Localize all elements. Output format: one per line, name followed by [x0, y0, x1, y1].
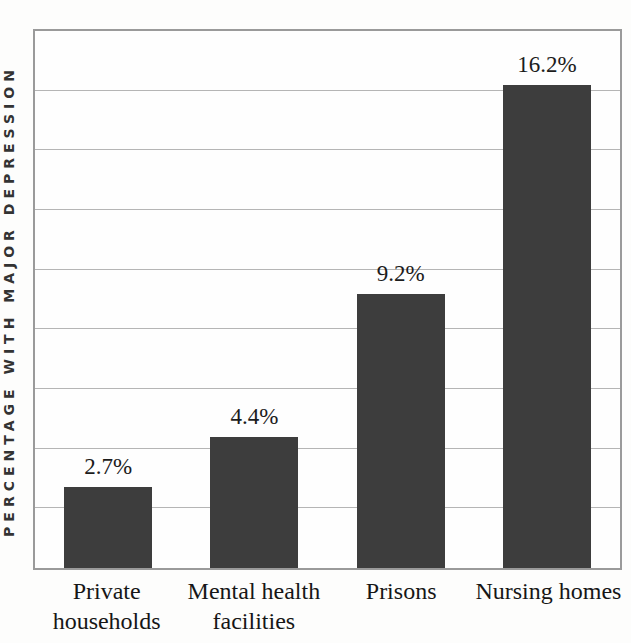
- category-label: Prisons: [328, 576, 475, 606]
- bar: [64, 487, 152, 568]
- bar-slot: 16.2%: [474, 31, 620, 568]
- bar-value-label: 16.2%: [517, 52, 576, 78]
- bar-value-label: 9.2%: [377, 261, 425, 287]
- category-label: Nursing homes: [475, 576, 622, 606]
- y-axis-label: PERCENTAGE WITH MAJOR DEPRESSION: [1, 31, 21, 571]
- bar-value-label: 4.4%: [230, 404, 278, 430]
- category-label-line: Private: [33, 576, 180, 606]
- bar-slot: 4.4%: [181, 31, 327, 568]
- category-label: Mental healthfacilities: [180, 576, 327, 636]
- bar: [503, 85, 591, 568]
- bar-slot: 2.7%: [35, 31, 181, 568]
- plot-area: 2.7%4.4%9.2%16.2%: [33, 29, 622, 570]
- category-label-line: facilities: [180, 606, 327, 636]
- bar-value-label: 2.7%: [84, 454, 132, 480]
- category-label-line: Mental health: [180, 576, 327, 606]
- category-label-line: Prisons: [328, 576, 475, 606]
- category-label-line: households: [33, 606, 180, 636]
- bar-slot: 9.2%: [328, 31, 474, 568]
- bar: [357, 294, 445, 568]
- category-label-line: Nursing homes: [475, 576, 622, 606]
- bar: [210, 437, 298, 568]
- bars-layer: 2.7%4.4%9.2%16.2%: [35, 31, 620, 568]
- bar-chart-figure: PERCENTAGE WITH MAJOR DEPRESSION 2.7%4.4…: [0, 0, 631, 643]
- category-label: Privatehouseholds: [33, 576, 180, 636]
- category-labels-row: PrivatehouseholdsMental healthfacilities…: [33, 576, 622, 636]
